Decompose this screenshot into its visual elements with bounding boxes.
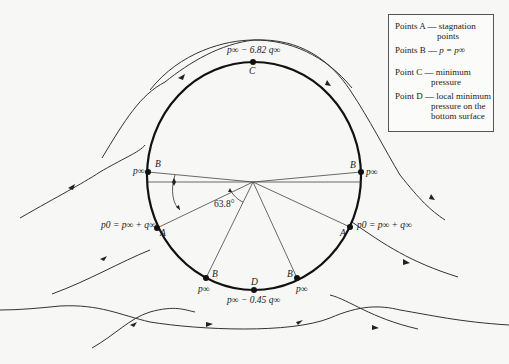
- label-angle: 63.8°: [214, 200, 234, 210]
- label-pressure-B-left: p∞: [133, 167, 145, 177]
- label-pressure-B-bottom-right: p∞: [296, 285, 308, 295]
- label-pressure-B-bottom-left: p∞: [198, 285, 210, 295]
- point-B-right: [358, 169, 364, 175]
- arrow-icon: [206, 322, 213, 327]
- arrow-icon: [429, 194, 435, 200]
- arrow-icon: [178, 74, 185, 80]
- label-point-D: D: [251, 278, 258, 288]
- legend-item-A: Points A — stagnation points: [395, 21, 493, 41]
- label-pressure-C: p∞ − 6.82 q∞: [227, 46, 280, 56]
- arrow-icon: [403, 259, 410, 265]
- arrow-icon: [100, 256, 107, 261]
- streamline-upper-left: [20, 145, 145, 218]
- legend-box: Points A — stagnation points Points B — …: [388, 14, 494, 132]
- streamline-right-bottom: [330, 295, 418, 329]
- label-point-B-bottom-left: B: [212, 270, 218, 280]
- arrow-icon: [296, 320, 303, 325]
- label-point-B-left: B: [155, 160, 161, 170]
- label-point-C: C: [249, 67, 255, 77]
- point-D: [251, 287, 257, 293]
- label-pressure-D: p∞ − 0.45 q∞: [227, 296, 280, 306]
- point-B-left: [145, 169, 151, 175]
- label-pressure-A-right: p0 = p∞ + q∞: [357, 221, 412, 231]
- point-B-bottom-left: [203, 275, 209, 281]
- radial-lines: [148, 172, 361, 278]
- point-A-right: [347, 224, 353, 230]
- label-point-B-right: B: [350, 161, 356, 171]
- label-point-A-right: A: [340, 229, 346, 239]
- arrow-icon: [325, 80, 331, 86]
- point-B-bottom-right: [294, 275, 300, 281]
- arrow-icon: [68, 184, 75, 190]
- arrow-icon: [130, 322, 137, 327]
- label-point-A-left: A: [160, 229, 166, 239]
- streamline-far-lower-left: [92, 308, 195, 348]
- streamline-bottom: [0, 306, 509, 329]
- arrow-icon: [372, 325, 379, 330]
- label-pressure-B-right: p∞: [366, 168, 378, 178]
- legend-item-D: Point D — local minimum pressure on the …: [395, 91, 493, 121]
- label-pressure-A-left: p0 = p∞ + q∞: [101, 221, 156, 231]
- cylinder: [147, 62, 361, 290]
- legend-item-C: Point C — minimum pressure: [395, 67, 493, 87]
- streamline-lower-left: [52, 250, 150, 294]
- legend-item-B: Points B — p = p∞: [395, 45, 493, 55]
- surface-points: [145, 59, 364, 293]
- point-C: [250, 59, 256, 65]
- label-point-B-bottom-right: B: [287, 270, 293, 280]
